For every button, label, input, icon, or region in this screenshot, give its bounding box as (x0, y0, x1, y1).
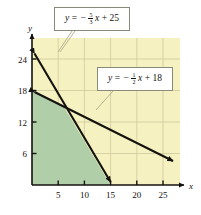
y-tick-label: 18 (18, 86, 28, 96)
equation-lhs: y (65, 14, 69, 24)
constant-term: 18 (153, 74, 163, 84)
x-term: x (138, 74, 142, 84)
equation-label-1: y = − 5 3 x + 25 (54, 7, 130, 31)
x-tick-label: 20 (132, 190, 142, 200)
x-tick-labels: 5 10 15 20 25 (56, 190, 168, 200)
fraction-denominator: 3 (88, 18, 93, 25)
equation-lhs: y (108, 74, 112, 84)
fraction-slope-2: 1 2 (131, 72, 136, 86)
equation-expression-1: y = − 5 3 x + 25 (65, 12, 119, 26)
x-tick-label: 5 (56, 190, 61, 200)
equation-expression-2: y = − 1 2 x + 18 (108, 72, 162, 86)
plus-sign: + (101, 14, 108, 24)
fraction-denominator: 2 (131, 78, 136, 85)
fraction-slope-1: 5 3 (88, 12, 93, 26)
y-tick-labels: 6 12 18 24 (18, 55, 28, 160)
x-term: x (95, 14, 99, 24)
y-tick-label: 24 (18, 55, 28, 65)
y-axis-label: y (27, 23, 32, 33)
minus-sign: − (123, 74, 130, 84)
x-axis-label: x (188, 181, 193, 191)
minus-sign: − (80, 14, 87, 24)
plus-sign: + (144, 74, 151, 84)
equals-sign: = (71, 14, 78, 24)
x-tick-label: 15 (106, 190, 116, 200)
y-tick-label: 6 (23, 149, 28, 159)
graph-figure: 5 10 15 20 25 6 12 18 24 x y y = − 5 3 x… (0, 0, 201, 215)
equation-label-2: y = − 1 2 x + 18 (97, 67, 173, 91)
constant-term: 25 (110, 14, 120, 24)
x-tick-label: 25 (159, 190, 169, 200)
y-tick-label: 12 (18, 118, 27, 128)
x-tick-label: 10 (80, 190, 90, 200)
coordinate-plane: 5 10 15 20 25 6 12 18 24 x y (0, 0, 201, 215)
equals-sign: = (114, 74, 121, 84)
